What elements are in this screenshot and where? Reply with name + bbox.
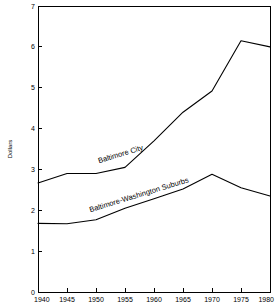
x-tick-label: 1975	[233, 296, 249, 303]
line-chart: 01234567 1940194519501955196019651970197…	[0, 0, 277, 307]
y-tick-label: 5	[31, 84, 35, 91]
axis-titles: Dollars	[7, 140, 13, 159]
series-lines	[38, 41, 270, 224]
y-axis-title: Dollars	[7, 140, 13, 159]
x-tick-label: 1940	[34, 296, 50, 303]
y-tick-label: 4	[31, 125, 35, 132]
x-tick-label: 1955	[117, 296, 133, 303]
series-line	[38, 174, 270, 223]
y-tick-label: 2	[31, 207, 35, 214]
y-axis: 01234567	[31, 3, 42, 296]
y-tick-label: 3	[31, 166, 35, 173]
plot-frame	[38, 6, 270, 292]
x-tick-label: 1965	[175, 296, 191, 303]
series-inline-label: Baltimore-Washington Suburbs	[88, 175, 190, 214]
y-tick-label: 0	[31, 289, 35, 296]
x-tick-label: 1945	[59, 296, 75, 303]
x-axis: 194019451950195519601965197019751980	[34, 288, 274, 303]
y-tick-label: 7	[31, 3, 35, 10]
x-tick-label: 1980	[258, 296, 274, 303]
x-tick-label: 1970	[204, 296, 220, 303]
y-tick-label: 1	[31, 248, 35, 255]
x-tick-label: 1950	[88, 296, 104, 303]
chart-canvas: 01234567 1940194519501955196019651970197…	[0, 0, 277, 307]
y-tick-label: 6	[31, 43, 35, 50]
x-tick-label: 1960	[146, 296, 162, 303]
series-line	[38, 41, 270, 183]
plot-border	[38, 6, 270, 292]
series-inline-label: Baltimore City	[97, 143, 145, 165]
